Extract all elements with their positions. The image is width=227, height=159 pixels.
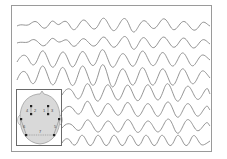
eeg-trace-2: [17, 36, 210, 49]
right-ear: [60, 115, 62, 125]
electrode-map-inset: 4 2 1 3 6 5 7: [16, 89, 62, 146]
head-map: 4 2 1 3 6 5 7: [17, 90, 63, 147]
left-ear: [18, 115, 20, 125]
eeg-trace-6: [62, 101, 210, 117]
eeg-trace-4: [17, 65, 210, 87]
eeg-trace-1: [17, 18, 210, 32]
eeg-trace-8: [62, 135, 210, 145]
eeg-trace-7: [62, 119, 210, 133]
eeg-trace-3: [17, 50, 210, 68]
eeg-trace-5: [62, 84, 210, 101]
